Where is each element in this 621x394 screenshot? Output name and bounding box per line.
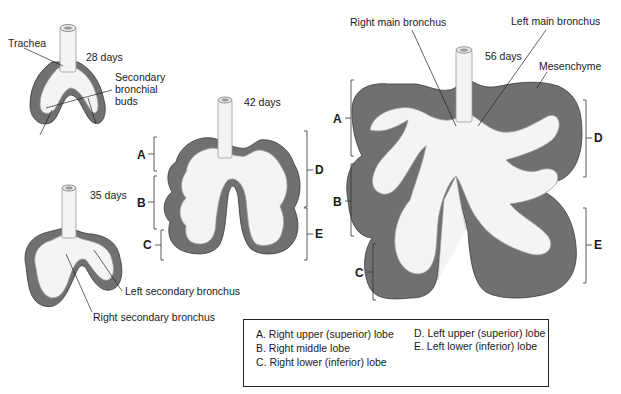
legend-item-a: A. Right upper (superior) lobe (256, 328, 394, 340)
stage-56-days-label: 56 days (485, 50, 522, 62)
left-secondary-bronchus-label: Left secondary bronchus (125, 285, 240, 297)
lobe-marker-b-42: B (137, 196, 146, 210)
lobe-marker-c-56: C (355, 266, 364, 280)
legend-item-c: C. Right lower (inferior) lobe (256, 356, 387, 368)
lobe-marker-a-56: A (333, 112, 342, 126)
lobe-legend: A. Right upper (superior) lobe B. Right … (243, 319, 549, 387)
stage-28-days-label: 28 days (86, 51, 123, 63)
lobe-marker-d-56: D (594, 131, 603, 145)
left-main-bronchus-label: Left main bronchus (511, 15, 600, 27)
secondary-bronchial-buds-label-2: bronchial (115, 83, 158, 95)
legend-item-e: E. Left lower (inferior) lobe (414, 340, 537, 352)
stage-35-days-label: 35 days (90, 189, 127, 201)
secondary-bronchial-buds-label-1: Secondary (115, 71, 165, 83)
lobe-marker-e-56: E (594, 238, 602, 252)
stage-42-days-lung (148, 97, 313, 260)
stage-42-days-label: 42 days (244, 96, 281, 108)
stage-35-days-lung (25, 185, 122, 312)
lobe-marker-c-42: C (143, 238, 152, 252)
lobe-marker-d-42: D (315, 163, 324, 177)
right-secondary-bronchus-label: Right secondary bronchus (93, 311, 215, 323)
secondary-bronchial-buds-label-3: buds (115, 95, 138, 107)
lobe-marker-a-42: A (137, 148, 146, 162)
lobe-marker-e-42: E (315, 227, 323, 241)
legend-item-d: D. Left upper (superior) lobe (414, 327, 545, 339)
legend-item-b: B. Right middle lobe (256, 342, 350, 354)
lobe-marker-b-56: B (333, 195, 342, 209)
trachea-label: Trachea (8, 37, 46, 49)
right-main-bronchus-label: Right main bronchus (350, 16, 446, 28)
mesenchyme-label: Mesenchyme (539, 60, 601, 72)
